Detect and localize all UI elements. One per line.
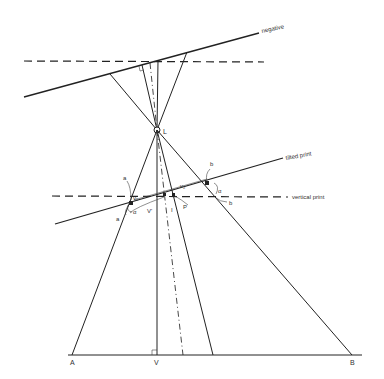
label-a-upper: a bbox=[123, 175, 127, 181]
point-b-tilted-marker bbox=[205, 181, 209, 185]
negative-plane-line bbox=[24, 33, 259, 97]
label-i: I bbox=[171, 207, 173, 213]
vertical-print-dashed bbox=[52, 196, 288, 197]
label-b-upper: b bbox=[210, 161, 214, 167]
label-a-lower: a bbox=[116, 216, 120, 222]
vertical-print-label: vertical print bbox=[292, 194, 325, 200]
ray-p-negative-dashdot bbox=[150, 63, 157, 130]
label-ground-A: A bbox=[70, 359, 75, 366]
ray-lens-to-I bbox=[157, 130, 213, 355]
ray-lens-to-P-dashdot bbox=[157, 130, 183, 355]
ray-a-negative bbox=[110, 74, 157, 130]
ray-lens-to-A bbox=[72, 130, 157, 355]
right-angle-mark-ground bbox=[152, 350, 157, 355]
photogrammetry-rectification-diagram: L tilted print vertical print a a b b α … bbox=[0, 0, 384, 379]
label-b-lower: b bbox=[229, 200, 233, 206]
point-a-tilted-marker bbox=[129, 201, 133, 205]
label-v1: v₁ bbox=[133, 195, 138, 201]
label-p: P bbox=[183, 204, 187, 210]
point-p-marker bbox=[172, 193, 175, 196]
tilted-print-label: tilted print bbox=[285, 151, 312, 161]
label-ground-B: B bbox=[350, 359, 355, 366]
ray-i-negative bbox=[142, 65, 157, 130]
curved-leader-a-upper bbox=[127, 181, 131, 200]
tilted-print-line bbox=[55, 158, 283, 224]
label-alpha-a: α bbox=[133, 209, 137, 215]
point-v-prime-marker bbox=[163, 193, 166, 196]
lens-label: L bbox=[163, 128, 167, 135]
ray-v-negative bbox=[157, 61, 158, 130]
label-ground-V: V bbox=[154, 359, 159, 366]
label-v-prime: V' bbox=[147, 208, 152, 214]
negative-horizontal-dashed bbox=[24, 61, 264, 62]
ray-lens-to-B bbox=[157, 130, 352, 355]
ray-b-negative bbox=[157, 52, 187, 130]
label-alpha-b: α bbox=[218, 188, 222, 194]
label-v2: v₂ bbox=[180, 183, 186, 189]
negative-label: negative bbox=[261, 23, 285, 34]
